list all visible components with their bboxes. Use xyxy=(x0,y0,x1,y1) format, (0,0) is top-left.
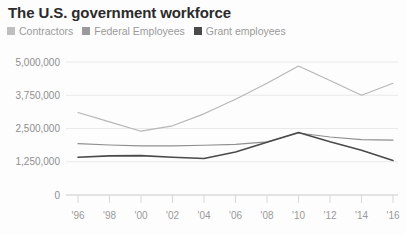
x-tick-label: '10 xyxy=(292,210,305,221)
chart-gridlines xyxy=(66,62,398,195)
x-tick-label: '04 xyxy=(197,210,210,221)
x-tick-label: '06 xyxy=(229,210,242,221)
y-tick-label: 0 xyxy=(54,190,60,201)
x-tick-label: '98 xyxy=(103,210,116,221)
line-chart: 01,250,0002,500,0003,750,0005,000,000 '9… xyxy=(0,0,406,235)
x-tick-label: '96 xyxy=(71,210,84,221)
series-line-contractors xyxy=(78,66,393,131)
series-line-grant-employees xyxy=(78,132,393,160)
y-tick-label: 3,750,000 xyxy=(16,90,61,101)
y-tick-label: 2,500,000 xyxy=(16,123,61,134)
chart-x-axis-ticks xyxy=(78,195,393,203)
chart-x-axis-labels: '96'98'00'02'04'06'08'10'12'14'16 xyxy=(71,210,399,221)
x-tick-label: '12 xyxy=(323,210,336,221)
x-tick-label: '16 xyxy=(386,210,399,221)
x-tick-label: '08 xyxy=(260,210,273,221)
series-line-federal-employees xyxy=(78,133,393,146)
y-tick-label: 1,250,000 xyxy=(16,156,61,167)
chart-card: The U.S. government workforce Contractor… xyxy=(0,0,406,235)
y-tick-label: 5,000,000 xyxy=(16,57,61,68)
chart-plot-area: 01,250,0002,500,0003,750,0005,000,000 '9… xyxy=(0,0,406,235)
chart-y-axis-labels: 01,250,0002,500,0003,750,0005,000,000 xyxy=(16,57,61,201)
chart-series-group xyxy=(78,66,393,160)
x-tick-label: '00 xyxy=(134,210,147,221)
x-tick-label: '02 xyxy=(166,210,179,221)
x-tick-label: '14 xyxy=(355,210,368,221)
